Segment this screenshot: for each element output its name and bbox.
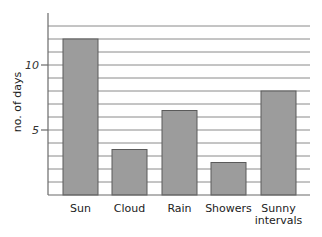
x-category-label: Showers	[205, 202, 252, 215]
bar-sun	[63, 39, 98, 195]
y-axis-title: no. of days	[11, 71, 24, 132]
x-category-label: Rain	[167, 202, 191, 215]
bar-showers	[211, 163, 246, 196]
bar-chart: 510 SunCloudRainShowersSunnyintervals no…	[0, 0, 322, 237]
y-tick-label: 10	[25, 59, 39, 72]
y-ticks: 510	[25, 59, 48, 137]
bar-rain	[162, 111, 197, 196]
x-category-label: Sun	[70, 202, 91, 215]
y-tick-label: 5	[32, 124, 39, 137]
bar-sunny-intervals	[261, 91, 296, 195]
x-labels: SunCloudRainShowersSunnyintervals	[70, 202, 303, 227]
bar-cloud	[112, 150, 147, 196]
x-category-label: Cloud	[114, 202, 145, 215]
bars	[63, 39, 296, 195]
x-category-label: intervals	[255, 214, 303, 227]
